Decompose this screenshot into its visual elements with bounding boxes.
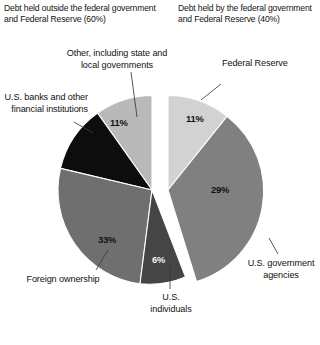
label-other: Other, including state and local governm… (58, 48, 176, 71)
value-other: 11% (110, 117, 129, 128)
label-banks: U.S. banks and other financial instituti… (2, 92, 88, 115)
label-federal-reserve: Federal Reserve (222, 58, 292, 70)
value-foreign: 33% (98, 234, 117, 245)
chart-canvas: Debt held outside the federal government… (0, 0, 320, 345)
label-individuals: U.S. individuals (141, 292, 201, 315)
label-foreign: Foreign ownership (24, 274, 102, 286)
leader-federal-reserve (201, 84, 221, 100)
value-individuals: 6% (152, 254, 166, 265)
value-federal-reserve: 11% (186, 113, 205, 124)
label-agencies: U.S. government agencies (244, 258, 318, 281)
leader-agencies (269, 238, 278, 254)
value-agencies: 29% (211, 184, 230, 195)
